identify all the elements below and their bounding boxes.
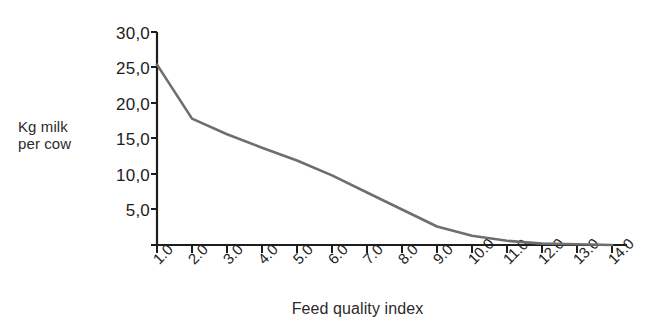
data-series-line [157, 65, 612, 245]
chart-figure: Kg milk per cow 30,0 25,0 20,0 15,0 10,0… [0, 0, 659, 334]
plot-area [0, 0, 659, 334]
x-axis-ticks [157, 245, 612, 253]
